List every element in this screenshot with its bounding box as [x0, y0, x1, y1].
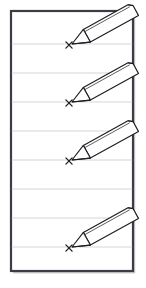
- ruled-paper-illustration: [0, 0, 146, 288]
- figure-canvas: Ruled paper sheet with four pencils mark…: [0, 0, 146, 288]
